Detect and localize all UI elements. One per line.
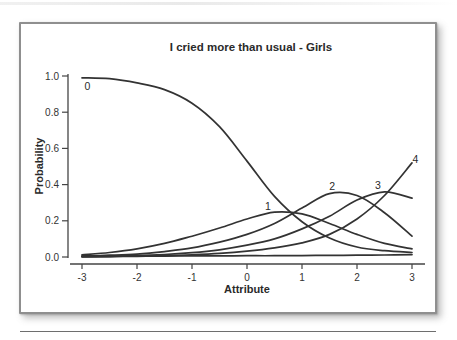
- y-tick-label: 0.6: [45, 143, 59, 154]
- curve-2: [82, 192, 412, 255]
- x-axis-label: Attribute: [224, 283, 270, 295]
- y-axis-label: Probability: [33, 137, 45, 195]
- chart-title: I cried more than usual - Girls: [170, 41, 332, 53]
- curve-label-2: 2: [329, 180, 335, 192]
- curve-label-1: 1: [265, 200, 271, 212]
- x-tick-label: 2: [354, 272, 360, 283]
- x-tick-label: -1: [188, 272, 197, 283]
- icc-chart: I cried more than usual - Girls Attribut…: [0, 0, 457, 340]
- curve-label-0: 0: [85, 80, 91, 92]
- x-tick-label: 3: [409, 272, 415, 283]
- axes: 0.00.20.40.60.81.0-3-2-10123: [45, 71, 425, 284]
- x-tick-label: -3: [78, 272, 87, 283]
- page: I cried more than usual - Girls Attribut…: [0, 0, 457, 340]
- y-tick-label: 1.0: [45, 71, 59, 82]
- x-tick-label: 1: [299, 272, 305, 283]
- curve-label-4: 4: [412, 153, 418, 165]
- curve-annotations: 01234: [85, 80, 419, 212]
- y-tick-label: 0.4: [45, 179, 59, 190]
- y-tick-label: 0.0: [45, 252, 59, 263]
- y-tick-label: 0.8: [45, 107, 59, 118]
- y-tick-label: 0.2: [45, 215, 59, 226]
- x-tick-label: -2: [133, 272, 142, 283]
- bottom-rule: [20, 331, 436, 332]
- curve-0: [82, 78, 412, 253]
- x-tick-label: 0: [244, 272, 250, 283]
- curve-3: [82, 192, 412, 257]
- curve-label-3: 3: [375, 179, 381, 191]
- curve-4: [82, 163, 412, 257]
- curves: [82, 78, 412, 257]
